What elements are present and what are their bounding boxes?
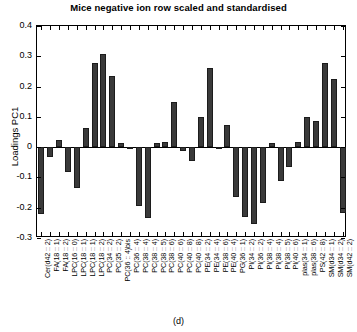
- x-tick-mark: [210, 26, 211, 30]
- x-tick-mark: [112, 26, 113, 30]
- x-tick-label: SM(d42 :: 2): [345, 239, 354, 277]
- bar: [295, 142, 301, 147]
- x-tick-label: PS(42 :: 8): [318, 239, 327, 272]
- x-tick-label: SM(d34 :: 1): [327, 239, 336, 277]
- x-tick-mark: [183, 232, 184, 236]
- x-tick-mark: [59, 232, 60, 236]
- bar: [109, 76, 115, 147]
- x-tick-mark: [281, 26, 282, 30]
- x-tick-mark: [307, 26, 308, 30]
- x-tick-mark: [148, 232, 149, 236]
- x-tick-label: PC(36 :: 4)bis: [123, 239, 132, 282]
- bar: [304, 117, 310, 147]
- x-tick-label: PI(38 :: 4): [274, 239, 283, 269]
- x-tick-mark: [325, 26, 326, 30]
- y-tick-label: -0.3: [16, 232, 32, 242]
- x-tick-label: PC(38 :: 4): [150, 239, 159, 273]
- x-tick-label: PC(36 :: 4): [132, 239, 141, 273]
- x-tick-mark: [192, 232, 193, 236]
- x-tick-mark: [183, 26, 184, 30]
- bar: [118, 143, 124, 148]
- x-tick-mark: [254, 232, 255, 236]
- x-tick-mark: [263, 26, 264, 30]
- bar: [47, 147, 53, 156]
- y-tick-label: 0.2: [19, 81, 32, 91]
- x-tick-mark: [272, 232, 273, 236]
- x-tick-mark: [263, 232, 264, 236]
- x-tick-mark: [245, 26, 246, 30]
- x-tick-mark: [174, 26, 175, 30]
- x-tick-mark: [227, 232, 228, 236]
- x-tick-label: FA(18 :: 1): [52, 239, 61, 271]
- bar: [145, 147, 151, 218]
- bar: [162, 142, 168, 147]
- x-tick-label: PE(34 :: 4): [212, 239, 221, 272]
- x-tick-label: PI(38 :: 4): [265, 239, 274, 269]
- y-tick-mark: [341, 208, 345, 209]
- bar: [154, 143, 160, 147]
- x-tick-mark: [236, 232, 237, 236]
- x-tick-mark: [41, 26, 42, 30]
- x-tick-label: PC(40 :: 8): [194, 239, 203, 273]
- y-tick-label: 0.4: [19, 20, 32, 30]
- x-tick-label: LPC(16 :: 0): [70, 239, 79, 277]
- x-tick-mark: [157, 232, 158, 236]
- x-tick-mark: [148, 26, 149, 30]
- x-tick-mark: [343, 232, 344, 236]
- bar: [278, 147, 284, 181]
- bar: [286, 147, 292, 166]
- bar: [331, 79, 337, 147]
- x-tick-mark: [139, 26, 140, 30]
- x-tick-mark: [130, 26, 131, 30]
- y-tick-mark: [37, 26, 41, 27]
- chart-figure: Mice negative ion row scaled and standar…: [0, 0, 357, 332]
- y-tick-mark: [37, 147, 41, 148]
- y-tick-mark: [37, 177, 41, 178]
- x-tick-mark: [68, 232, 69, 236]
- y-tick-label: 0.3: [19, 50, 32, 60]
- x-tick-mark: [68, 26, 69, 30]
- x-tick-mark: [219, 26, 220, 30]
- x-tick-mark: [103, 232, 104, 236]
- x-tick-mark: [130, 232, 131, 236]
- x-tick-mark: [174, 232, 175, 236]
- x-tick-mark: [289, 232, 290, 236]
- x-tick-label: PI(36 :: 2): [256, 239, 265, 269]
- y-tick-mark: [341, 87, 345, 88]
- x-tick-mark: [103, 26, 104, 30]
- x-tick-mark: [157, 26, 158, 30]
- chart-title: Mice negative ion row scaled and standar…: [0, 2, 357, 13]
- bar: [127, 147, 133, 149]
- bar: [198, 117, 204, 147]
- x-tick-mark: [254, 26, 255, 30]
- x-tick-mark: [201, 26, 202, 30]
- bar: [260, 147, 266, 203]
- x-tick-mark: [325, 232, 326, 236]
- x-tick-mark: [77, 232, 78, 236]
- y-tick-mark: [37, 56, 41, 57]
- bar: [269, 143, 275, 147]
- x-tick-mark: [316, 232, 317, 236]
- x-tick-mark: [210, 232, 211, 236]
- x-tick-label: PC(40 :: 6): [176, 239, 185, 273]
- x-tick-label: PG(36 :: 1): [238, 239, 247, 273]
- x-tick-label: plas(38 :: 6): [309, 239, 318, 276]
- bar: [340, 147, 346, 212]
- bar: [322, 63, 328, 147]
- x-axis-labels: Cer(d42 :: 2)FA(18 :: 1)FA(18 :: 2)LPC(1…: [36, 239, 346, 317]
- y-tick-mark: [37, 117, 41, 118]
- y-tick-label: -0.2: [16, 202, 32, 212]
- y-tick-label: 0: [27, 141, 32, 151]
- y-axis-label: Loadings PC1: [9, 97, 20, 177]
- x-tick-mark: [334, 26, 335, 30]
- bar: [74, 147, 80, 188]
- x-tick-mark: [86, 232, 87, 236]
- x-tick-mark: [272, 26, 273, 30]
- x-tick-mark: [307, 232, 308, 236]
- x-tick-mark: [50, 26, 51, 30]
- panel-letter: (d): [0, 316, 357, 326]
- x-tick-mark: [219, 232, 220, 236]
- x-tick-mark: [201, 232, 202, 236]
- x-tick-label: PC(40 :: 8): [185, 239, 194, 273]
- bar: [171, 102, 177, 147]
